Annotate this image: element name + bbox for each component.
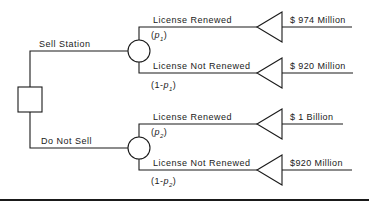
probability-label: (1-p1): [151, 80, 176, 94]
outcome-label: License Renewed: [153, 112, 232, 122]
decision-tree-graphic: [0, 0, 369, 202]
outcome-label: License Renewed: [153, 15, 232, 25]
payoff-value: $ 1 Billion: [290, 112, 333, 122]
chance-node-1: [128, 40, 150, 62]
probability-label: (p1): [151, 30, 167, 44]
outcome-label: License Not Renewed: [153, 158, 251, 168]
payoff-value: $920 Million: [290, 158, 343, 168]
terminal-triangle-4: [257, 155, 282, 185]
terminal-triangle-3: [257, 109, 282, 139]
payoff-value: $ 974 Million: [290, 15, 346, 25]
probability-label: (1-p2): [151, 176, 176, 190]
branch-sell-station: [30, 51, 128, 87]
option-label-sell-station: Sell Station: [39, 39, 91, 49]
payoff-value: $ 920 Million: [290, 61, 346, 71]
chance-node-2: [128, 137, 150, 159]
outcome-label: License Not Renewed: [153, 61, 251, 71]
terminal-triangle-1: [257, 12, 282, 42]
decision-node-square: [18, 87, 42, 112]
option-label-do-not-sell: Do Not Sell: [41, 136, 92, 146]
terminal-triangle-2: [257, 58, 282, 88]
probability-label: (p2): [151, 127, 167, 141]
